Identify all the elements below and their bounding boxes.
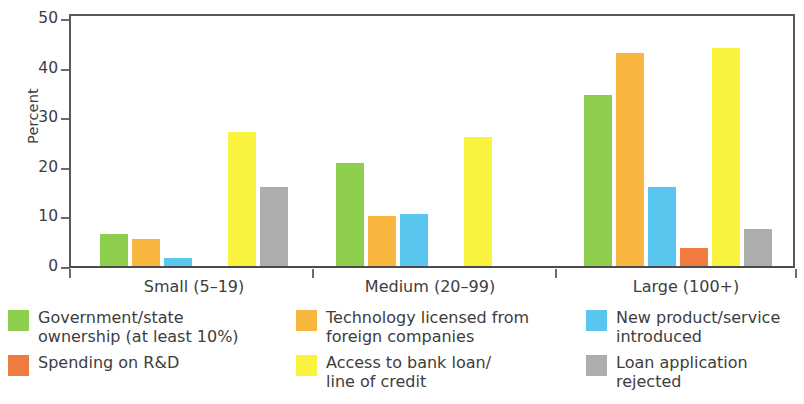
legend-column: New product/service introducedLoan appli…	[586, 308, 804, 404]
y-axis-tick-label: 40	[12, 61, 58, 77]
legend-entry: Loan application rejected	[586, 353, 804, 391]
legend-label: Spending on R&D	[38, 353, 179, 372]
legend-label: Loan application rejected	[616, 353, 748, 391]
x-axis-group-label: Small (5–19)	[84, 277, 304, 296]
bar	[132, 239, 160, 266]
x-axis-group-label: Medium (20–99)	[320, 277, 540, 296]
y-axis-tick-label: 20	[12, 160, 58, 176]
bar	[100, 234, 128, 266]
x-axis-tick	[69, 269, 71, 278]
bar	[368, 216, 396, 266]
bar	[744, 229, 772, 266]
legend-entry: Technology licensed from foreign compani…	[296, 308, 586, 346]
legend-column: Government/state ownership (at least 10%…	[8, 308, 296, 404]
bar	[648, 187, 676, 266]
legend-column: Technology licensed from foreign compani…	[296, 308, 586, 404]
chart-legend: Government/state ownership (at least 10%…	[8, 308, 804, 404]
bar	[464, 137, 492, 266]
y-axis-tick-label: 50	[12, 11, 58, 27]
x-axis-tick	[795, 269, 797, 278]
bar	[712, 48, 740, 266]
legend-entry: Spending on R&D	[8, 353, 296, 376]
grouped-bar-chart: Percent 50403020100 Small (5–19)Medium (…	[0, 0, 804, 404]
x-axis-tick	[312, 269, 314, 278]
x-axis-tick	[555, 269, 557, 278]
bar	[228, 132, 256, 266]
bar	[680, 248, 708, 266]
legend-swatch-technology-licensed	[296, 310, 317, 331]
bar	[400, 214, 428, 266]
bar	[584, 95, 612, 266]
legend-label: Access to bank loan/ line of credit	[326, 353, 491, 391]
legend-entry: Government/state ownership (at least 10%…	[8, 308, 296, 346]
legend-swatch-rd-spending	[8, 355, 29, 376]
legend-entry: New product/service introduced	[586, 308, 804, 346]
legend-swatch-bank-loan-access	[296, 355, 317, 376]
bar	[616, 53, 644, 266]
y-axis-tick-label: 0	[12, 259, 58, 275]
x-axis-group-label: Large (100+)	[576, 277, 796, 296]
bar	[260, 187, 288, 266]
legend-label: Government/state ownership (at least 10%…	[38, 308, 239, 346]
bar	[164, 258, 192, 266]
y-axis-tick-label: 10	[12, 209, 58, 225]
legend-entry: Access to bank loan/ line of credit	[296, 353, 586, 391]
bar	[336, 163, 364, 266]
plot-area	[69, 14, 795, 268]
legend-swatch-loan-rejected	[586, 355, 607, 376]
legend-label: New product/service introduced	[616, 308, 780, 346]
y-axis-tick-label: 30	[12, 110, 58, 126]
legend-label: Technology licensed from foreign compani…	[326, 308, 529, 346]
legend-swatch-government-ownership	[8, 310, 29, 331]
legend-swatch-new-product	[586, 310, 607, 331]
